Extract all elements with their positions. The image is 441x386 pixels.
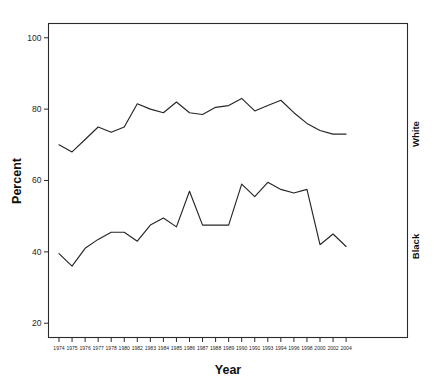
x-tick-label: 1993 <box>262 345 273 351</box>
y-tick-label: 60 <box>32 175 42 185</box>
x-tick-label: 2004 <box>340 345 351 351</box>
x-tick-label: 1989 <box>223 345 234 351</box>
chart-background <box>0 0 441 386</box>
y-tick-label: 100 <box>27 33 41 43</box>
x-tick-label: 1976 <box>79 345 90 351</box>
series-label-black: Black <box>410 233 421 259</box>
x-tick-label: 1987 <box>197 345 208 351</box>
x-tick-label: 2002 <box>327 345 338 351</box>
y-tick-label: 80 <box>32 104 42 114</box>
x-tick-label: 1983 <box>145 345 156 351</box>
y-tick-label: 40 <box>32 247 42 257</box>
y-tick-label: 20 <box>32 318 42 328</box>
y-axis-title: Percent <box>10 157 24 204</box>
x-tick-label: 1988 <box>210 345 221 351</box>
x-axis-title: Year <box>215 363 242 377</box>
x-tick-label: 1975 <box>66 345 77 351</box>
line-chart-canvas: 10080604020 1974197519761977197819801982… <box>0 0 441 386</box>
x-tick-label: 1991 <box>249 345 260 351</box>
chart-figure: 10080604020 1974197519761977197819801982… <box>0 0 441 386</box>
x-tick-label: 1974 <box>53 345 64 351</box>
x-tick-label: 1985 <box>171 345 182 351</box>
x-axis-ticks: 1974197519761977197819801982198319841985… <box>53 338 352 351</box>
x-tick-label: 1990 <box>236 345 247 351</box>
series-label-white: White <box>410 121 421 147</box>
x-tick-label: 1980 <box>119 345 130 351</box>
x-tick-label: 1996 <box>288 345 299 351</box>
x-tick-label: 1978 <box>106 345 117 351</box>
x-tick-label: 1998 <box>301 345 312 351</box>
x-tick-label: 1977 <box>92 345 103 351</box>
x-tick-label: 2000 <box>314 345 325 351</box>
x-tick-label: 1984 <box>158 345 169 351</box>
x-tick-label: 1982 <box>132 345 143 351</box>
x-tick-label: 1986 <box>184 345 195 351</box>
x-tick-label: 1994 <box>275 345 286 351</box>
